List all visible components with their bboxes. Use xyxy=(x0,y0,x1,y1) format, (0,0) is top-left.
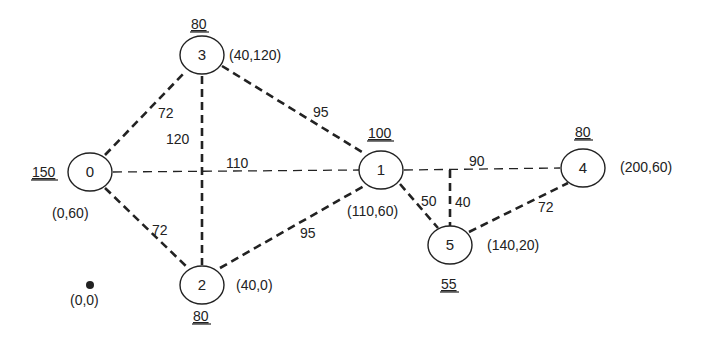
node-3: 3(40,120)80 xyxy=(180,16,281,74)
node-5: 5(140,20)55 xyxy=(428,226,539,292)
edge-weight-label: 40 xyxy=(455,194,471,210)
node-label: 0 xyxy=(86,163,94,180)
node-demand: 100 xyxy=(368,125,392,141)
edge-2-1 xyxy=(220,186,364,268)
edge-weight-label: 72 xyxy=(152,222,168,238)
network-diagram: 7272110120959590504072 0(0,60)1501(110,6… xyxy=(0,0,703,338)
node-demand: 150 xyxy=(32,164,56,180)
edge-0-2 xyxy=(105,188,188,268)
node-label: 4 xyxy=(579,159,587,176)
node-coordinate: (200,60) xyxy=(620,159,672,175)
node-demand: 80 xyxy=(191,16,207,32)
edge-weight-label: 95 xyxy=(300,225,316,241)
node-0: 0(0,60)150 xyxy=(31,153,112,221)
node-coordinate: (40,120) xyxy=(229,47,281,63)
node-demand: 80 xyxy=(193,308,209,324)
edge-weight-label: 50 xyxy=(421,193,437,209)
node-coordinate: (40,0) xyxy=(236,277,273,293)
origin-dot xyxy=(86,281,94,289)
node-label: 2 xyxy=(198,276,206,293)
node-demand: 80 xyxy=(575,124,591,140)
node-2: 2(40,0)80 xyxy=(180,266,273,324)
node-demand: 55 xyxy=(441,276,457,292)
node-coordinate: (0,60) xyxy=(52,205,89,221)
edge-weight-label: 110 xyxy=(226,155,249,171)
node-label: 3 xyxy=(198,46,206,63)
edge-weight-label: 95 xyxy=(313,104,329,120)
edge-weight-label: 72 xyxy=(158,105,174,121)
node-1: 1(110,60)100 xyxy=(347,125,403,219)
origin-point: (0,0) xyxy=(70,281,99,308)
nodes-layer: 0(0,60)1501(110,60)1002(40,0)803(40,120)… xyxy=(31,16,672,324)
edge-weight-label: 90 xyxy=(469,153,485,169)
edge-weight-label: 120 xyxy=(166,131,190,147)
node-label: 1 xyxy=(377,161,385,178)
node-coordinate: (140,20) xyxy=(487,237,539,253)
node-label: 5 xyxy=(446,236,454,253)
node-coordinate: (110,60) xyxy=(347,203,398,219)
edge-3-1 xyxy=(222,66,362,152)
edge-weight-label: 72 xyxy=(538,199,554,215)
origin-label: (0,0) xyxy=(70,292,99,308)
node-4: 4(200,60)80 xyxy=(561,124,672,187)
